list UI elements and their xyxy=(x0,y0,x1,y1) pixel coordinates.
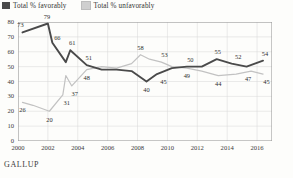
x-tick-label: 2008 xyxy=(131,144,144,151)
legend-item-unfavorable: Total % unfavorably xyxy=(81,1,155,10)
x-tick-label: 2016 xyxy=(250,144,263,151)
legend-label-favorable: Total % favorably xyxy=(13,2,67,10)
value-label: 61 xyxy=(69,40,75,46)
value-label: 73 xyxy=(17,22,23,28)
x-tick-label: 2010 xyxy=(161,144,174,151)
value-label: 37 xyxy=(72,91,78,97)
value-label: 48 xyxy=(84,74,90,80)
value-label: 54 xyxy=(262,50,268,56)
value-label: 53 xyxy=(161,52,167,58)
value-label: 45 xyxy=(263,79,269,85)
value-label: 49 xyxy=(184,73,190,79)
y-tick-label: 10 xyxy=(0,123,14,129)
chart-page: Total % favorably Total % unfavorably 01… xyxy=(0,0,293,178)
legend-item-favorable: Total % favorably xyxy=(2,2,67,10)
gallup-logo: GALLUP xyxy=(4,160,39,169)
legend-label-unfavorable: Total % unfavorably xyxy=(94,2,155,10)
value-label: 44 xyxy=(215,80,221,86)
value-label: 51 xyxy=(86,55,92,61)
value-label: 55 xyxy=(215,49,221,55)
x-tick-label: 2004 xyxy=(71,144,84,151)
legend-swatch-unfavorable-icon xyxy=(81,1,91,10)
y-tick-label: 80 xyxy=(0,19,14,25)
y-tick-label: 20 xyxy=(0,108,14,114)
value-label: 20 xyxy=(46,117,52,123)
x-tick-label: 2006 xyxy=(101,144,114,151)
x-tick-label: 2000 xyxy=(11,144,24,151)
value-label: 66 xyxy=(54,35,60,41)
x-tick-label: 2012 xyxy=(191,144,204,151)
value-label: 31 xyxy=(64,100,70,106)
y-tick-label: 50 xyxy=(0,64,14,70)
y-tick-label: 40 xyxy=(0,79,14,85)
x-tick-label: 2002 xyxy=(41,144,54,151)
value-label: 58 xyxy=(137,45,143,51)
legend-swatch-favorable-icon xyxy=(2,2,10,9)
chart-plot-area: 7379666151404550555254262031374858534944… xyxy=(18,22,272,141)
value-label: 26 xyxy=(19,107,25,113)
x-tick-label: 2014 xyxy=(221,144,234,151)
value-label: 79 xyxy=(44,13,50,19)
value-label: 45 xyxy=(160,79,166,85)
value-label: 40 xyxy=(143,86,149,92)
x-axis-labels: 200020022004200620082010201220142016 xyxy=(18,143,272,155)
chart-legend: Total % favorably Total % unfavorably xyxy=(2,1,154,10)
value-label: 52 xyxy=(235,53,241,59)
value-label: 47 xyxy=(245,76,251,82)
y-tick-label: 30 xyxy=(0,93,14,99)
y-tick-label: 70 xyxy=(0,34,14,40)
y-tick-label: 60 xyxy=(0,49,14,55)
value-label: 50 xyxy=(187,56,193,62)
